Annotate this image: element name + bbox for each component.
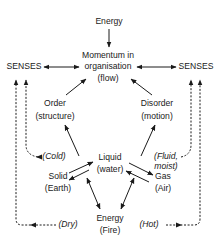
disorder-label-line2: (motion) — [141, 111, 173, 123]
order-label-line2: (structure) — [35, 111, 74, 123]
order-label-line1: Order — [44, 98, 66, 110]
elements-energy-diagram: Energy Momentum in organisation (flow) S… — [0, 0, 218, 247]
liquid-to-gas-arrow — [129, 163, 153, 175]
liquid-label-line1: Liquid — [99, 152, 122, 164]
order-to-flow-arrow — [66, 79, 86, 95]
senses-left-label: SENSES — [7, 61, 42, 73]
senses-right-label: SENSES — [179, 61, 214, 73]
cold-arrowhead-decor — [36, 155, 42, 160]
disorder-to-flow-arrow — [131, 79, 152, 95]
energy-fire-label-line2: (Fire) — [100, 225, 121, 237]
momentum-label-line1: Momentum in — [82, 50, 134, 62]
liquid-label-line2: (water) — [97, 164, 124, 176]
energy-fire-label-line1: Energy — [96, 213, 123, 225]
liquid-fire-right-double-arrow — [121, 178, 134, 209]
connector-arrows — [0, 0, 218, 247]
liquid-fire-left-double-arrow — [87, 178, 100, 209]
quality-cold-label: (Cold) — [42, 151, 65, 163]
quality-hot-label: (Hot) — [139, 219, 158, 231]
momentum-label-line2: organisation — [85, 61, 132, 73]
gas-to-liquid-arrow — [126, 171, 149, 182]
hot-arrowhead-decor — [176, 223, 182, 228]
solid-to-liquid-arrow — [69, 162, 93, 173]
quality-dry-label: (Dry) — [58, 219, 77, 231]
momentum-label-line3: (flow) — [97, 73, 118, 85]
liquid-to-disorder-arrow — [141, 125, 155, 156]
solid-label-line2: (Earth) — [45, 183, 71, 195]
liquid-to-order-arrow — [65, 125, 79, 156]
quality-fluid-label-line2: moist) — [154, 161, 177, 173]
disorder-label-line1: Disorder — [141, 98, 173, 110]
energy-source-label: Energy — [95, 16, 122, 28]
gas-label-line2: (Air) — [155, 183, 171, 195]
dry-arrowhead-decor — [30, 223, 36, 228]
fluid-to-senses-dashed-arrow — [181, 80, 191, 157]
gas-label-line1: Gas — [155, 171, 171, 183]
solid-label-line1: Solid — [48, 171, 67, 183]
